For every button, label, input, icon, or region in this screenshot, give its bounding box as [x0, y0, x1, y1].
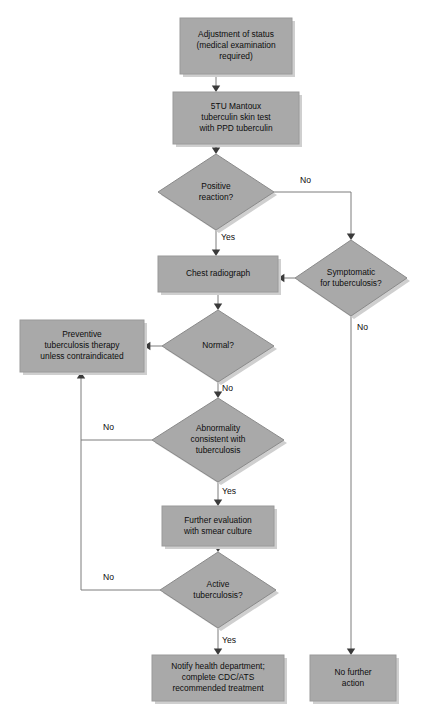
edge-label-e4: No: [300, 175, 311, 185]
edge-line: [274, 192, 351, 234]
edge-arrowhead: [214, 649, 222, 655]
edge-arrowhead: [214, 392, 222, 398]
node-label: Active: [207, 579, 230, 589]
node-label: complete CDC/ATS: [182, 672, 255, 682]
node-label: (medical examination: [196, 40, 275, 50]
edge-positive_reaction-to-symptomatic: [274, 192, 355, 240]
node-chest_radiograph: Chest radiograph: [158, 256, 281, 295]
node-label: action: [342, 678, 365, 688]
node-no_action: No furtheraction: [310, 655, 399, 704]
node-label: tuberculosis therapy: [45, 340, 121, 350]
edge-positive_reaction-to-chest_radiograph: [212, 230, 220, 256]
edge-abnormality-to-further_evaluation: [214, 482, 222, 506]
node-label: unless contraindicated: [40, 351, 124, 361]
node-label: 5TU Mantoux: [211, 101, 262, 111]
node-label: tuberculin skin test: [201, 112, 271, 122]
edge-arrowhead: [214, 500, 222, 506]
node-label: Positive: [201, 181, 231, 191]
node-symptomatic: Symptomaticfor tuberculosis?: [295, 240, 410, 319]
node-label: Symptomatic: [327, 267, 375, 277]
edge-label-e14: Yes: [222, 635, 236, 645]
node-label: with PPD tuberculin: [198, 123, 272, 133]
edge-abnormality-to-preventive: [77, 372, 152, 440]
edge-symptomatic-to-no_action: [347, 316, 355, 655]
tuberculosis-screening-flowchart: Adjustment of status(medical examination…: [0, 0, 424, 709]
node-label: consistent with: [191, 434, 246, 444]
edge-label-e10: No: [103, 422, 114, 432]
edge-arrowhead: [212, 250, 220, 256]
node-adjustment: Adjustment of status(medical examination…: [180, 18, 295, 77]
node-abnormality: Abnormalityconsistent withtuberculosis: [152, 398, 287, 485]
flowchart-canvas: Adjustment of status(medical examination…: [0, 0, 424, 709]
node-mantoux: 5TU Mantouxtuberculin skin testwith PPD …: [173, 92, 302, 147]
edge-active_tb-to-preventive: [81, 440, 160, 590]
node-normal: Normal?: [162, 310, 277, 385]
node-label: Adjustment of status: [198, 29, 274, 39]
edge-label-e9: No: [222, 383, 233, 393]
edge-arrowhead: [212, 148, 220, 154]
node-label: with smear culture: [183, 526, 252, 536]
node-active_tb: Activetuberculosis?: [160, 552, 279, 631]
node-label: Notify health department;: [171, 661, 265, 671]
node-positive_reaction: Positivereaction?: [158, 154, 277, 233]
edge-active_tb-to-notify: [214, 628, 222, 655]
node-label: Preventive: [62, 329, 102, 339]
edge-arrowhead: [347, 234, 355, 240]
edge-label-e11: Yes: [222, 486, 236, 496]
edge-label-e6: No: [357, 322, 368, 332]
edge-label-e3: Yes: [221, 232, 235, 242]
node-further_evaluation: Further evaluationwith smear culture: [162, 506, 277, 549]
edge-arrowhead: [347, 649, 355, 655]
edge-arrowhead: [214, 304, 222, 310]
node-label: tuberculosis?: [193, 590, 243, 600]
node-label: No further: [334, 667, 371, 677]
node-label: required): [219, 51, 253, 61]
node-label: Abnormality: [196, 423, 241, 433]
node-label: tuberculosis: [196, 445, 241, 455]
node-label: Chest radiograph: [186, 268, 251, 278]
node-label: recommended treatment: [172, 683, 264, 693]
edge-arrowhead: [212, 86, 220, 92]
node-notify: Notify health department;complete CDC/AT…: [152, 655, 287, 704]
node-label: Further evaluation: [184, 515, 252, 525]
edge-line: [81, 378, 152, 440]
edge-line: [81, 440, 160, 590]
node-label: for tuberculosis?: [320, 278, 382, 288]
node-label: Normal?: [202, 340, 234, 350]
edge-label-e13: No: [103, 572, 114, 582]
node-preventive: Preventivetuberculosis therapyunless con…: [20, 320, 147, 375]
node-label: reaction?: [199, 192, 234, 202]
